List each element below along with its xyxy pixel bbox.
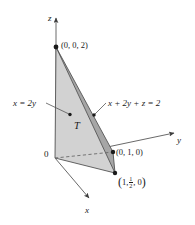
fraction-denominator: 2	[129, 182, 133, 190]
vertex-dot-apex	[54, 45, 59, 50]
point-label-y-vertex: (0, 1, 0)	[116, 148, 143, 157]
region-label-T: T	[74, 121, 80, 132]
x-vertex-last-coord: , 0	[133, 177, 142, 187]
tetrahedron-diagram	[0, 0, 195, 225]
x-vertex-first-coord: 1,	[122, 177, 128, 187]
fraction-one-half: 12	[129, 176, 133, 190]
paren-open: (	[118, 175, 122, 189]
x-axis-label: x	[85, 206, 89, 215]
point-label-apex: (0, 0, 2)	[61, 41, 88, 50]
leader-dot-x-equals-2y	[68, 113, 71, 116]
vertex-dot-y-vertex	[111, 150, 115, 154]
plane-equation-label-left: x = 2y	[13, 99, 36, 108]
y-axis-label: y	[177, 136, 181, 145]
plane-equation-label-right: x + 2y + z = 2	[108, 99, 160, 108]
vertex-dot-x-vertex	[113, 171, 117, 175]
z-axis-label: z	[48, 14, 52, 23]
leader-dot-plane-equation	[92, 113, 95, 116]
paren-close: )	[142, 175, 146, 189]
origin-label: 0	[44, 150, 49, 159]
figure-container: z y x 0 (0, 0, 2) (0, 1, 0) (1,12, 0) x …	[0, 0, 195, 225]
point-label-x-vertex: (1,12, 0)	[118, 176, 146, 190]
leader-line-plane-equation	[95, 103, 106, 114]
